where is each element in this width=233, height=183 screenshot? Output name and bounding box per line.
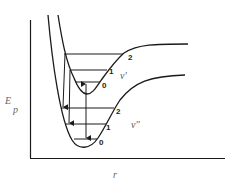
transition-arrow-1 [69,70,70,123]
transition-arrow-2 [63,54,65,107]
x-axis-label: r [113,169,117,180]
upper-level-2-label: 2 [128,53,133,62]
y-axis-label: E [4,95,11,106]
y-axis-label-subscript: p [12,104,18,115]
lower-level-1-label: 1 [106,123,111,132]
lower-potential-curve [48,15,185,147]
upper-level-1-label: 1 [109,67,114,76]
upper-state-label: v' [120,70,127,81]
lower-level-2-label: 2 [116,107,121,116]
lower-state-label: v'' [131,119,141,130]
potential-energy-diagram: 2 1 0 v' 2 1 0 v'' E p r [0,0,233,183]
upper-level-0-label: 0 [102,81,107,90]
lower-level-0-label: 0 [99,138,104,147]
